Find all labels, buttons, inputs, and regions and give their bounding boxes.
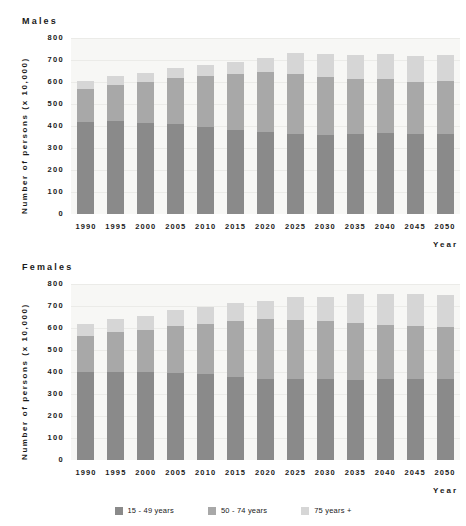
y-axis-tick-label: 100 [34,433,64,442]
bar-2020 [257,58,274,214]
bar-segment [407,134,424,214]
bar-segment [437,55,454,81]
bar-1995 [107,319,124,460]
bar-2005 [167,68,184,214]
x-axis-tick-label: 2015 [219,468,253,477]
bar-segment [77,336,94,373]
bar-2035 [347,55,364,214]
bar-segment [227,377,244,460]
legend-item[interactable]: 15 - 49 years [115,506,174,515]
legend-item[interactable]: 50 - 74 years [208,506,267,515]
bar-segment [77,89,94,122]
y-axis-tick-label: 0 [34,209,64,218]
x-axis-tick-label: 2030 [308,222,342,231]
bar-2005 [167,310,184,460]
bar-2025 [287,297,304,460]
x-axis-tick-label: 1990 [69,468,103,477]
bar-segment [227,62,244,74]
x-axis-tick-label: 2040 [368,222,402,231]
bar-segment [257,72,274,132]
legend-swatch-icon [301,507,309,515]
bar-segment [197,307,214,324]
y-axis-title: Number of persons (x 10,000) [20,303,29,460]
bar-segment [287,320,304,379]
bar-segment [197,324,214,374]
bar-segment [137,73,154,82]
bar-2010 [197,307,214,460]
x-axis-tick-label: 2050 [428,222,462,231]
y-axis-tick-label: 400 [34,367,64,376]
bar-segment [437,327,454,379]
gridline [71,38,460,39]
bar-segment [227,303,244,321]
x-axis-tick-label: 2010 [189,222,223,231]
y-axis-tick-label: 500 [34,345,64,354]
x-axis-tick-label: 2045 [398,222,432,231]
bar-2035 [347,294,364,460]
x-axis-tick-label: 2000 [129,468,163,477]
x-axis-tick-label: 2025 [278,222,312,231]
y-axis-tick-label: 800 [34,33,64,42]
bar-segment [137,316,154,330]
y-axis-tick-label: 800 [34,279,64,288]
x-axis-tick-label: 2005 [159,222,193,231]
bar-segment [227,321,244,377]
y-axis-tick-label: 100 [34,187,64,196]
bar-segment [287,53,304,75]
bar-2045 [407,56,424,214]
bar-segment [107,372,124,460]
bar-segment [257,132,274,214]
x-axis-tick-label: 2035 [338,222,372,231]
bar-segment [347,294,364,322]
bar-segment [197,374,214,460]
legend-swatch-icon [208,507,216,515]
y-axis-tick-label: 200 [34,411,64,420]
bar-segment [227,130,244,214]
bar-segment [377,294,394,325]
bar-segment [347,55,364,79]
bar-segment [257,301,274,320]
x-axis-title: Year [433,240,458,249]
bar-2040 [377,294,394,460]
legend-item[interactable]: 75 years + [301,506,351,515]
bar-1995 [107,76,124,214]
bar-2020 [257,301,274,460]
bar-segment [257,379,274,460]
bar-segment [137,123,154,214]
bar-segment [407,82,424,134]
x-axis-tick-label: 2045 [398,468,432,477]
x-axis-title: Year [433,486,458,495]
x-axis-tick-label: 2000 [129,222,163,231]
bar-segment [377,133,394,214]
bar-segment [107,332,124,372]
bar-segment [167,373,184,460]
bar-segment [437,81,454,133]
chart-legend: 15 - 49 years50 - 74 years75 years + [0,506,466,515]
bar-segment [257,319,274,379]
bar-2030 [317,54,334,214]
y-axis-tick-label: 600 [34,77,64,86]
y-axis-tick-label: 200 [34,165,64,174]
bar-segment [317,135,334,214]
bar-2025 [287,53,304,214]
bar-segment [77,122,94,214]
bar-1990 [77,324,94,460]
bar-segment [107,85,124,122]
legend-label: 15 - 49 years [128,506,174,515]
panel-title: Males [22,16,58,26]
x-axis-tick-label: 2015 [219,222,253,231]
x-axis-tick-label: 2020 [249,468,283,477]
bar-2040 [377,54,394,214]
bar-2045 [407,294,424,460]
bar-segment [377,54,394,79]
bar-2015 [227,62,244,214]
x-axis-tick-label: 2020 [249,222,283,231]
y-axis-tick-label: 300 [34,389,64,398]
plot-area [71,284,460,460]
bar-segment [167,124,184,214]
bar-segment [287,74,304,134]
bar-segment [407,294,424,326]
bar-segment [437,379,454,460]
bar-segment [107,319,124,332]
bar-segment [407,379,424,460]
